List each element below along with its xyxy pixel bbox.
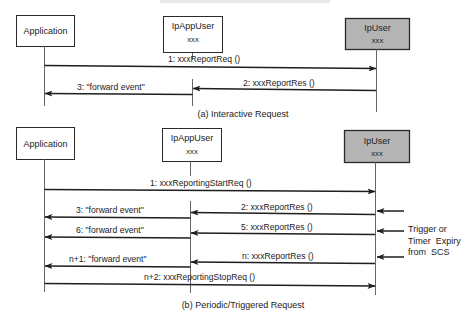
message-label: 3: "forward event" — [77, 82, 145, 92]
actor-ipuser-sub: xxx — [372, 36, 384, 45]
message-2: 2: xxxReportRes () — [193, 78, 376, 91]
actor-ipuser-label: IpUser — [364, 23, 391, 33]
message-n: n: xxxReportRes () — [191, 251, 375, 264]
caption-b: (b) Periodic/Triggered Request — [182, 300, 305, 310]
trigger-note: Trigger or Timer Expiry from SCS — [408, 224, 461, 257]
trigger-note-line-2: Timer Expiry — [408, 236, 461, 246]
actor-ipuser: IpUser xxx — [345, 131, 410, 163]
message-label: n: xxxReportRes () — [242, 251, 314, 261]
actor-ipappuser-label: IpAppUser — [172, 21, 215, 31]
message-n-plus-2: n+2: xxxReportingStopReq () — [45, 272, 376, 286]
message-3: 3: "forward event" — [45, 205, 191, 218]
actor-ipappuser: IpAppUser xxx — [164, 17, 223, 53]
message-label: n+2: xxxReportingStopReq () — [144, 272, 255, 282]
actor-ipuser-sub: xxx — [371, 149, 383, 158]
message-label: 2: xxxReportRes () — [241, 202, 313, 212]
actor-application-label: Application — [23, 139, 67, 149]
message-label: 5: xxxReportRes () — [241, 222, 313, 232]
actor-ipuser-label: IpUser — [364, 136, 391, 146]
message-label: 1: xxxReportingStartReq () — [150, 178, 252, 188]
actor-application: Application — [17, 128, 75, 160]
trigger-arrows — [377, 211, 404, 257]
actor-ipappuser-sub: xxx — [187, 35, 199, 44]
message-label: 2: xxxReportRes () — [243, 78, 315, 88]
diagram-periodic-triggered-request: Application IpAppUser xxx IpUser xxx 1: … — [17, 128, 462, 311]
trigger-note-line-1: Trigger or — [408, 224, 447, 234]
caption-a: (a) Interactive Request — [197, 109, 289, 119]
message-1: 1: xxxReportingStartReq () — [45, 178, 376, 192]
message-1: 1: xxxReportReq () — [45, 54, 377, 69]
sequence-diagrams: Application IpAppUser xxx IpUser xxx 1: … — [0, 0, 476, 322]
message-6: 6: "forward event" — [45, 225, 191, 238]
actor-application-label: Application — [23, 26, 67, 36]
page-bleed-artifact — [160, 0, 330, 3]
message-2: 2: xxxReportRes () — [191, 202, 375, 215]
actor-ipappuser-sub: xxx — [186, 147, 198, 156]
message-label: 1: xxxReportReq () — [168, 54, 240, 64]
message-label: 3: "forward event" — [76, 205, 144, 215]
trigger-note-line-3: from SCS — [408, 247, 450, 257]
message-label: n+1: "forward event" — [69, 254, 147, 264]
actor-ipuser: IpUser xxx — [346, 19, 410, 50]
message-5: 5: xxxReportRes () — [191, 222, 375, 235]
message-n-plus-1: n+1: "forward event" — [45, 254, 191, 267]
actor-ipappuser-label: IpAppUser — [171, 133, 214, 143]
actor-application: Application — [17, 16, 75, 47]
message-3: 3: "forward event" — [45, 82, 193, 95]
message-label: 6: "forward event" — [76, 225, 144, 235]
actor-ipappuser: IpAppUser xxx — [163, 129, 222, 162]
diagram-interactive-request: Application IpAppUser xxx IpUser xxx 1: … — [17, 16, 410, 120]
